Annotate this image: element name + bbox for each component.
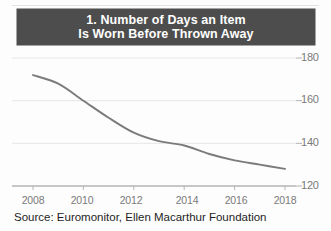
x-tick-label: 2012	[120, 194, 143, 206]
x-tick-label: 2016	[225, 194, 248, 206]
y-tick-label: 180	[301, 51, 319, 63]
x-tick-label: 2010	[71, 194, 94, 206]
x-tick-label: 2008	[22, 194, 45, 206]
y-tick-label: 160	[301, 93, 319, 105]
source-note: Source: Euromonitor, Ellen Macarthur Fou…	[14, 211, 267, 223]
y-tick-label: 120	[301, 179, 319, 191]
x-tick-label: 2018	[274, 194, 297, 206]
chart-figure: 1. Number of Days an Item Is Worn Before…	[0, 0, 331, 231]
x-tick-label: 2014	[176, 194, 199, 206]
y-tick-label: 140	[301, 136, 319, 148]
